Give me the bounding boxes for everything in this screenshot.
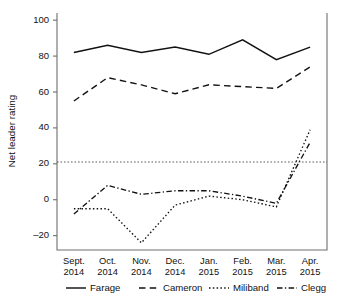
plot-frame xyxy=(57,13,327,250)
x-tick-label: Oct.2014 xyxy=(97,256,118,277)
y-axis-title: Net leader rating xyxy=(6,95,17,167)
series-line-miliband xyxy=(74,130,310,243)
y-tick-label: –20 xyxy=(33,229,49,240)
net-leader-rating-chart: –20020406080100 Sept.2014Oct.2014Nov.201… xyxy=(0,0,339,303)
x-tick-label: Dec.2014 xyxy=(165,256,186,277)
y-tick-label: 80 xyxy=(38,50,49,61)
legend-label-farage: Farage xyxy=(90,282,120,293)
y-tick-label: 20 xyxy=(38,157,49,168)
x-tick-label: Nov.2014 xyxy=(131,256,152,277)
x-axis: Sept.2014Oct.2014Nov.2014Dec.2014Jan.201… xyxy=(63,256,320,277)
x-tick-label: Jan.2015 xyxy=(199,256,220,277)
x-tick-label: Apr.2015 xyxy=(300,256,321,277)
data-series-group xyxy=(74,40,310,243)
line-chart-figure: –20020406080100 Sept.2014Oct.2014Nov.201… xyxy=(0,0,339,303)
y-tick-label: 0 xyxy=(44,193,49,204)
series-line-clegg xyxy=(74,142,310,214)
y-tick-label: 40 xyxy=(38,121,49,132)
chart-legend: FarageCameronMilibandClegg xyxy=(66,282,326,293)
y-axis-title-text: Net leader rating xyxy=(6,95,17,167)
y-axis: –20020406080100 xyxy=(33,14,57,240)
y-tick-label: 100 xyxy=(33,14,49,25)
legend-label-miliband: Miliband xyxy=(233,282,269,293)
legend-label-cameron: Cameron xyxy=(163,282,202,293)
y-tick-label: 60 xyxy=(38,86,49,97)
series-line-farage xyxy=(74,40,310,60)
series-line-cameron xyxy=(74,67,310,101)
x-tick-label: Feb.2015 xyxy=(232,256,253,277)
x-tick-label: Sept.2014 xyxy=(63,256,85,277)
legend-label-clegg: Clegg xyxy=(301,282,326,293)
x-tick-label: Mar.2015 xyxy=(266,256,287,277)
